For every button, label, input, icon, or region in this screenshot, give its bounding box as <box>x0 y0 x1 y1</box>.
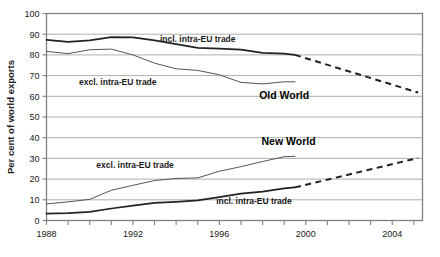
y-tick-label-20: 20 <box>29 174 39 184</box>
annotation-new-world-incl: incl. intra-EU trade <box>216 196 292 206</box>
y-tick-label-80: 80 <box>29 50 39 60</box>
chart-figure: 0102030405060708090100 19881992199620002… <box>0 0 440 257</box>
y-tick-label-100: 100 <box>24 9 39 19</box>
annotation-new-world-excl: excl. intra-EU trade <box>96 160 174 170</box>
x-tick-label-1988: 1988 <box>36 229 56 239</box>
y-tick-label-90: 90 <box>29 30 39 40</box>
y-tick-label-60: 60 <box>29 92 39 102</box>
y-tick-label-40: 40 <box>29 133 39 143</box>
y-tick-label-70: 70 <box>29 71 39 81</box>
y-axis-title: Per cent of world exports <box>5 60 16 174</box>
x-tick-label-2004: 2004 <box>382 229 402 239</box>
annotation-old-world-incl: incl. intra-EU trade <box>160 34 236 44</box>
x-tick-label-1996: 1996 <box>209 229 229 239</box>
y-tick-label-50: 50 <box>29 112 39 122</box>
y-tick-label-10: 10 <box>29 195 39 205</box>
y-tick-label-0: 0 <box>34 216 39 226</box>
annotation-new-world-group: New World <box>261 135 315 147</box>
annotation-old-world-excl: excl. intra-EU trade <box>79 77 157 87</box>
y-tick-label-30: 30 <box>29 154 39 164</box>
x-tick-label-1992: 1992 <box>123 229 143 239</box>
annotation-old-world-group: Old World <box>259 89 309 101</box>
x-tick-label-2000: 2000 <box>296 229 316 239</box>
line-chart: 0102030405060708090100 19881992199620002… <box>0 0 440 257</box>
y-axis-title-text: Per cent of world exports <box>5 60 16 174</box>
